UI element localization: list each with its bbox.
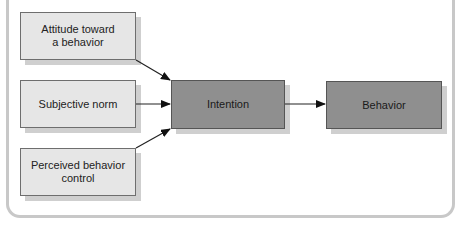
edge-attitude-to-intention: [136, 60, 170, 80]
edges-layer: [0, 0, 465, 236]
edge-perceived-control-to-intention: [136, 129, 170, 148]
